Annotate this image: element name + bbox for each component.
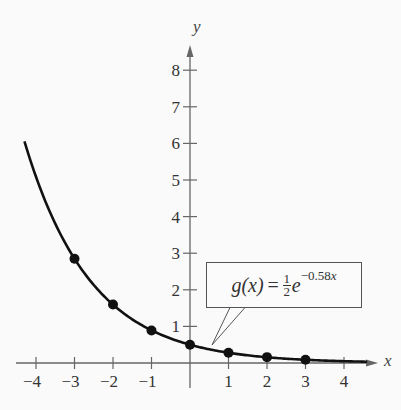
chart-area: −4−3−2−1123412345678 x y g(x) = 1 2 e −0…: [0, 0, 401, 410]
y-tick-label: 1: [172, 317, 181, 336]
x-tick-label: 4: [340, 372, 349, 391]
x-tick-label: 1: [224, 372, 233, 391]
x-axis-arrow-icon: [366, 360, 378, 367]
y-axis-arrow-icon: [187, 45, 194, 57]
function-label-callout: g(x) = 1 2 e −0.58x: [206, 262, 362, 308]
data-point: [301, 355, 311, 365]
fraction-denominator: 2: [284, 286, 291, 298]
y-tick-label: 5: [172, 171, 181, 190]
y-tick-label: 3: [172, 244, 181, 263]
function-curve: [24, 141, 367, 361]
function-name: g(x): [231, 274, 263, 297]
x-tick-label: 3: [301, 372, 310, 391]
g-of-x-curve: [24, 141, 367, 361]
y-axis-label: y: [191, 17, 201, 36]
coefficient-fraction: 1 2: [283, 273, 291, 298]
callout-pointer-shape: [212, 308, 245, 346]
fraction-numerator: 1: [284, 273, 291, 285]
data-point: [224, 348, 234, 358]
chart-canvas: −4−3−2−1123412345678 x y: [0, 0, 401, 410]
x-tick-label: −1: [138, 372, 156, 391]
callout-pointer: [212, 308, 245, 346]
y-tick-label: 8: [172, 61, 181, 80]
data-point: [185, 340, 195, 350]
data-point: [262, 352, 272, 362]
x-tick-label: 2: [263, 372, 272, 391]
x-axis-label: x: [383, 351, 392, 370]
exponential-base: e: [292, 274, 301, 297]
data-point: [147, 325, 157, 335]
data-point: [70, 254, 80, 264]
y-tick-label: 7: [172, 98, 181, 117]
exponent-variable: x: [331, 268, 337, 283]
x-tick-label: −4: [23, 372, 42, 391]
x-tick-label: −2: [100, 372, 118, 391]
exponent-value: −0.58: [301, 268, 331, 283]
equals-sign: =: [268, 274, 279, 297]
x-tick-label: −3: [61, 372, 79, 391]
y-tick-label: 2: [172, 281, 181, 300]
y-tick-label: 4: [172, 208, 181, 227]
exponent: −0.58x: [301, 268, 337, 284]
ticks: −4−3−2−1123412345678: [23, 61, 349, 391]
y-tick-label: 6: [172, 134, 181, 153]
data-point: [108, 299, 118, 309]
